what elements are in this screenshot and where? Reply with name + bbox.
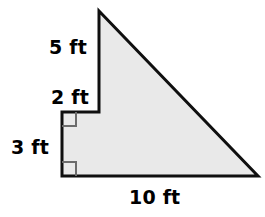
stepped-triangle-shape [62,11,258,176]
dimension-label-left-side: 3 ft [11,138,49,157]
dimension-label-notch-riser: 2 ft [51,88,89,107]
dimension-label-top-left-side: 5 ft [49,38,87,57]
geometry-figure-canvas: 5 ft 2 ft 3 ft 10 ft [0,0,265,217]
shape-diagram [0,0,265,217]
dimension-label-bottom-side: 10 ft [129,188,180,207]
